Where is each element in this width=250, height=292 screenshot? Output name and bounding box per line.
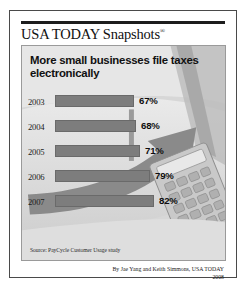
bar [55,120,136,132]
bar-value-label: 82% [159,195,178,206]
source-note: Source: PayCycle Customer Usage study [30,247,120,253]
chart-row: 2007 82% [22,194,226,212]
bar [55,95,134,107]
bar [55,170,150,182]
bar-value-label: 71% [145,145,164,156]
chart-row: 2006 79% [22,169,226,187]
chart-headline: More small businesses file taxes electro… [30,54,205,79]
bar-category-label: 2007 [28,197,52,207]
bar-category-label: 2005 [28,147,52,157]
bar-value-label: 79% [155,170,174,181]
snapshot-card: USA TODAY Snapshots® [9,10,237,278]
chart-row: 2005 71% [22,144,226,162]
bar-chart: 2003 67% 2004 68% 2005 71% 2006 79% 2007 [22,94,226,234]
masthead-title-text: USA TODAY Snapshots [21,26,160,42]
bar [55,195,154,207]
bar [55,145,140,157]
chart-panel: More small businesses file taxes electro… [21,45,226,261]
masthead-rule [21,21,225,24]
bar-value-label: 68% [141,120,160,131]
bar-category-label: 2004 [28,122,52,132]
chart-row: 2003 67% [22,94,226,112]
masthead-title: USA TODAY Snapshots® [21,26,227,43]
chart-row: 2004 68% [22,119,226,137]
byline-year: 2008 [113,273,225,281]
registered-mark-icon: ® [160,27,165,35]
byline: By Jae Yang and Keith Simmons, USA TODAY… [113,265,225,281]
bar-category-label: 2003 [28,97,52,107]
bar-value-label: 67% [139,95,158,106]
byline-credit: By Jae Yang and Keith Simmons, USA TODAY [113,266,225,272]
bar-category-label: 2006 [28,172,52,182]
